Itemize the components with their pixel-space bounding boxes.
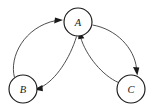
edge-a-to-b[interactable] — [34, 37, 77, 92]
edge-c-to-a[interactable] — [78, 31, 118, 83]
node-b[interactable]: B — [9, 75, 37, 103]
diagram-canvas: A B C — [0, 0, 156, 112]
edge-a-to-c[interactable] — [93, 25, 140, 76]
edge-b-to-a-arrowhead — [54, 17, 63, 23]
edge-b-to-a-path — [13, 21, 56, 78]
edge-b-to-a[interactable] — [13, 17, 63, 77]
node-c-label: C — [127, 84, 135, 95]
directed-graph: A B C — [0, 0, 156, 112]
edge-a-to-c-arrowhead — [133, 67, 139, 76]
node-a-label: A — [74, 17, 82, 28]
node-c[interactable]: C — [117, 75, 145, 103]
edge-c-to-a-path — [81, 37, 119, 83]
edge-a-to-c-path — [93, 25, 137, 69]
edge-a-to-b-path — [41, 37, 77, 88]
node-a[interactable]: A — [64, 8, 92, 36]
node-b-label: B — [20, 84, 27, 95]
